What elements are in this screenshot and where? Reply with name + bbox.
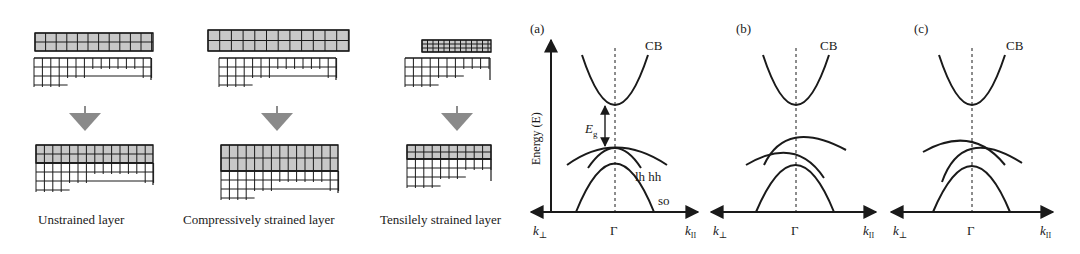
cb-label: CB xyxy=(1006,38,1024,53)
k-perp-label: k⊥ xyxy=(533,223,547,240)
k-perp-label: k⊥ xyxy=(893,223,907,240)
caption-tensile: Tensilely strained layer xyxy=(380,212,502,227)
panel-label-a: (a) xyxy=(530,21,544,36)
vb-top xyxy=(764,137,846,165)
caption-unstrained: Unstrained layer xyxy=(38,212,125,227)
band-structure-panels: (a)CBEglh hhsoEnergy (E)k⊥ΓkII(b)CBk⊥ΓkI… xyxy=(529,21,1053,240)
k-parallel-label: kII xyxy=(863,223,874,240)
k-parallel-label: kII xyxy=(685,223,696,240)
gap-label: Eg xyxy=(584,121,598,139)
lattice-schematics: Unstrained layerCompressively strained l… xyxy=(34,30,502,227)
lattice-column-tensile: Tensilely strained layer xyxy=(380,40,502,227)
strain-band-diagram: Unstrained layerCompressively strained l… xyxy=(0,0,1080,254)
lattice-column-compressive: Compressively strained layer xyxy=(183,30,349,227)
band-panel-a: (a)CBEglh hhsoEnergy (E)k⊥ΓkII xyxy=(529,21,698,240)
band-panel-b: (b)CBk⊥ΓkII xyxy=(711,21,876,240)
lattice-column-unstrained: Unstrained layer xyxy=(34,33,154,227)
cb-label: CB xyxy=(645,38,663,53)
gamma-label: Γ xyxy=(791,223,799,238)
cb-label: CB xyxy=(820,38,838,53)
lh-hh-label: lh hh xyxy=(635,169,662,184)
panel-label-b: (b) xyxy=(736,21,751,36)
so-label: so xyxy=(658,193,670,208)
k-parallel-label: kII xyxy=(1040,223,1051,240)
k-perp-label: k⊥ xyxy=(713,223,727,240)
so-band xyxy=(756,165,834,212)
caption-compressive: Compressively strained layer xyxy=(183,212,335,227)
gamma-label: Γ xyxy=(610,223,618,238)
energy-axis-label: Energy (E) xyxy=(529,112,543,165)
panel-label-c: (c) xyxy=(914,21,928,36)
gamma-label: Γ xyxy=(967,223,975,238)
hh-band xyxy=(567,148,667,166)
band-panel-c: (c)CBk⊥ΓkII xyxy=(891,21,1053,240)
